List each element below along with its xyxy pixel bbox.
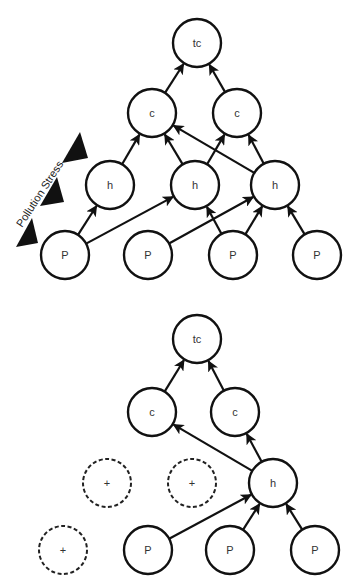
food-web-diagram: tccchhhPPPPtccc++h+PPP Pollution Stress <box>0 0 357 588</box>
node-label: c <box>234 107 240 119</box>
node-label: c <box>149 406 155 418</box>
node-before-p2: P <box>124 231 172 279</box>
edge-after-c2-to-tc <box>209 361 224 391</box>
nodes-layer: tccchhhPPPPtccc++h+PPP <box>39 19 341 574</box>
node-label: c <box>149 107 155 119</box>
node-before-p1: P <box>41 231 89 279</box>
node-label: h <box>270 477 276 489</box>
node-after-p3: P <box>206 526 254 574</box>
node-label: P <box>144 249 151 261</box>
edge-before-p4-to-h3 <box>288 206 305 234</box>
node-after-p2: P <box>124 526 172 574</box>
node-label: P <box>311 544 318 556</box>
edge-after-c1-to-tc <box>165 360 184 391</box>
node-label: + <box>189 477 195 489</box>
node-after-x2: + <box>168 459 216 507</box>
edge-after-p3-to-h3 <box>243 504 260 530</box>
node-after-x3: + <box>39 526 87 574</box>
edge-before-h1-to-c1 <box>122 135 139 165</box>
edge-after-p4-to-h3 <box>286 504 302 529</box>
node-label: + <box>60 544 66 556</box>
node-label: c <box>232 406 238 418</box>
node-after-p4: P <box>291 526 339 574</box>
node-after-h3: h <box>249 459 297 507</box>
edge-before-c1-to-tc <box>165 64 184 93</box>
node-label: P <box>313 249 320 261</box>
node-before-h3: h <box>251 161 299 209</box>
node-before-c2: c <box>213 89 261 137</box>
pollution-stress-indicator: Pollution Stress <box>14 132 88 247</box>
edge-before-c2-to-tc <box>209 65 225 92</box>
edge-before-h3-to-c2 <box>249 135 264 164</box>
node-before-tc: tc <box>173 19 221 67</box>
node-before-p3: P <box>209 231 257 279</box>
node-label: P <box>226 544 233 556</box>
edge-before-h2-to-c1 <box>165 134 183 164</box>
stress-arrow-icon <box>62 132 88 163</box>
node-label: h <box>272 179 278 191</box>
edge-before-p1-to-h1 <box>78 206 97 235</box>
edge-after-h3-to-c2 <box>247 434 262 462</box>
node-label: P <box>61 249 68 261</box>
node-after-tc: tc <box>173 315 221 363</box>
edge-before-p3-to-h3 <box>245 206 262 234</box>
node-before-h1: h <box>86 161 134 209</box>
node-after-x1: + <box>83 459 131 507</box>
node-label: P <box>144 544 151 556</box>
node-after-c1: c <box>128 388 176 436</box>
node-before-p4: P <box>293 231 341 279</box>
node-before-h2: h <box>171 161 219 209</box>
node-label: h <box>192 179 198 191</box>
node-label: tc <box>193 37 202 49</box>
node-label: tc <box>193 333 202 345</box>
node-before-c1: c <box>128 89 176 137</box>
node-label: h <box>107 179 113 191</box>
node-label: P <box>229 249 236 261</box>
node-label: + <box>104 477 110 489</box>
node-after-c2: c <box>211 388 259 436</box>
